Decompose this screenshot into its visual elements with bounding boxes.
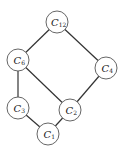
node-c1: C1 (37, 123, 59, 145)
node-c2: C2 (59, 99, 81, 121)
hasse-diagram: C12C6C4C3C2C1 (0, 0, 126, 154)
nodes: C12C6C4C3C2C1 (7, 11, 117, 145)
node-c12: C12 (46, 11, 68, 33)
node-c6: C6 (7, 49, 29, 71)
node-c4: C4 (95, 57, 117, 79)
node-c3: C3 (7, 97, 29, 119)
